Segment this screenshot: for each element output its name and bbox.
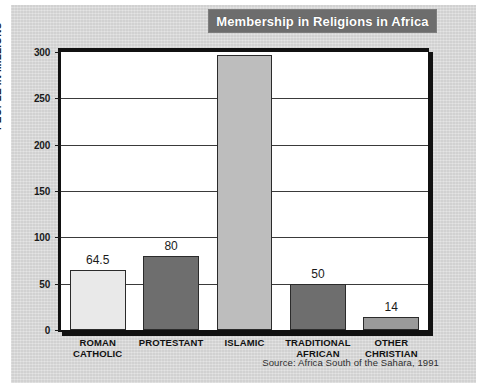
bar-value-label: 80 [164, 239, 177, 253]
y-axis-tick [55, 284, 61, 285]
y-axis-tick-label: 100 [10, 232, 50, 243]
bar [70, 270, 126, 330]
bar [363, 317, 419, 330]
category-label-line: ISLAMIC [225, 337, 265, 348]
y-axis-tick-label: 50 [10, 278, 50, 289]
y-axis-tick [55, 52, 61, 53]
plot-inner [61, 52, 428, 330]
category-label-line: TRADITIONAL [285, 337, 350, 348]
chart-title: Membership in Religions in Africa [216, 14, 428, 29]
chart-title-banner: Membership in Religions in Africa [208, 9, 437, 33]
bar-value-label: 14 [385, 300, 398, 314]
category-label-line: OTHER [365, 337, 418, 348]
bar [143, 256, 199, 330]
x-axis-category-label: ISLAMIC [225, 337, 265, 348]
y-axis-tick [55, 98, 61, 99]
bar [290, 284, 346, 330]
y-axis-tick [55, 330, 61, 331]
category-label-line: CATHOLIC [73, 348, 122, 359]
category-label-line: AFRICAN [285, 348, 350, 359]
y-axis-tick-label: 150 [10, 186, 50, 197]
category-label-line: ROMAN [73, 337, 122, 348]
category-label-line: PROTESTANT [139, 337, 204, 348]
bar-value-label: 64.5 [86, 253, 109, 267]
category-label-line: CHRISTIAN [365, 348, 418, 359]
y-axis-tick [55, 237, 61, 238]
x-axis-category-label: OTHERCHRISTIAN [365, 337, 418, 359]
y-axis-tick-label: 200 [10, 139, 50, 150]
figure-page: Membership in Religions in Africa PEOPLE… [0, 0, 487, 391]
y-axis-title: PEOPLE IN MILLIONS [0, 23, 3, 131]
x-axis-category-label: PROTESTANT [139, 337, 204, 348]
y-axis-tick [55, 191, 61, 192]
x-axis-category-label: ROMANCATHOLIC [73, 337, 122, 359]
y-axis-tick [55, 145, 61, 146]
y-axis-tick-label: 250 [10, 93, 50, 104]
plot-area [58, 48, 429, 332]
y-axis-tick-label: 0 [10, 325, 50, 336]
bar [217, 55, 273, 330]
bar-value-label: 50 [311, 267, 324, 281]
x-axis-category-label: TRADITIONALAFRICAN [285, 337, 350, 359]
y-axis-tick-label: 300 [10, 47, 50, 58]
